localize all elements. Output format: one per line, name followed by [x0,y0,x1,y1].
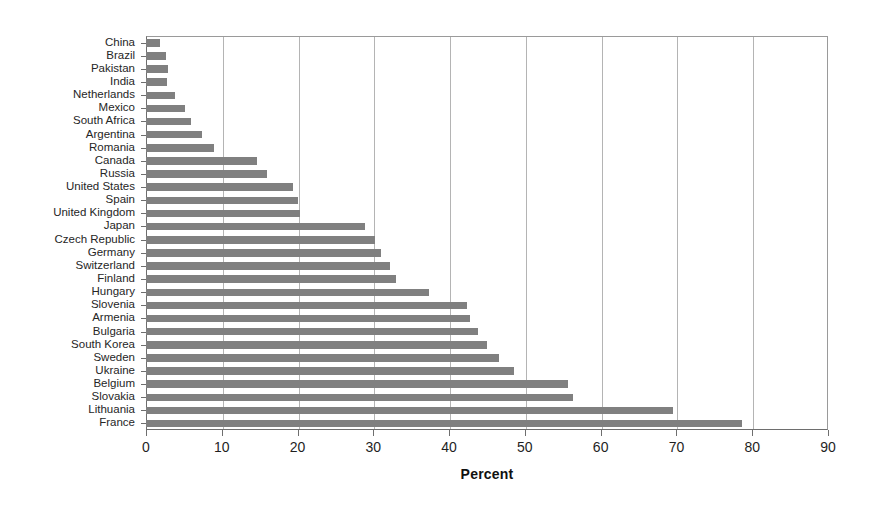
category-label: Germany [88,247,135,259]
x-axis-tick [676,430,677,436]
bar-row [146,207,828,220]
y-axis-tick [141,266,146,267]
y-axis-tick [141,410,146,411]
bar [146,236,375,244]
y-axis-tick [141,148,146,149]
bar [146,131,202,139]
bar [146,65,168,73]
bar-row [146,180,828,193]
x-axis-tick [298,430,299,436]
category-label: Hungary [92,286,135,298]
bar [146,367,514,375]
bar-row [146,36,828,49]
bar-row [146,194,828,207]
y-axis-tick [141,371,146,372]
y-axis-tick [141,240,146,241]
bar-row [146,62,828,75]
bar-row [146,128,828,141]
y-axis-tick [141,332,146,333]
y-axis-tick [141,108,146,109]
value-axis: 0102030405060708090 [146,430,828,470]
bar [146,197,298,205]
bar [146,144,214,152]
bar [146,249,381,257]
bar-row [146,364,828,377]
bar [146,170,267,178]
category-label: Canada [95,155,135,167]
category-label: South Africa [73,115,135,127]
y-axis-tick [141,384,146,385]
y-axis-tick [141,95,146,96]
bar-row [146,49,828,62]
bar-row [146,89,828,102]
category-label: Mexico [99,102,135,114]
x-axis-tick [222,430,223,436]
y-axis-tick [141,43,146,44]
bar-row [146,167,828,180]
bar [146,105,185,113]
bar [146,52,166,60]
bar-row [146,220,828,233]
x-axis-tick-label: 30 [366,439,382,455]
bar [146,262,390,270]
bar-row [146,377,828,390]
y-axis-tick [141,292,146,293]
category-label: France [99,417,135,429]
x-axis-tick-label: 0 [142,439,150,455]
bar [146,289,429,297]
x-axis-tick-label: 70 [669,439,685,455]
bar-row [146,154,828,167]
bar-row [146,141,828,154]
bar-row [146,312,828,325]
category-label: Finland [97,273,135,285]
bar [146,341,487,349]
x-axis-tick [828,430,829,436]
bar [146,394,573,402]
bar-row [146,299,828,312]
bar [146,39,160,47]
bar [146,157,257,165]
bar [146,92,175,100]
x-axis-tick-label: 90 [820,439,836,455]
bar [146,223,365,231]
bar-row [146,233,828,246]
y-axis-tick [141,56,146,57]
bar [146,210,300,218]
category-axis: ChinaBrazilPakistanIndiaNetherlandsMexic… [0,36,146,430]
y-axis-tick [141,135,146,136]
bar [146,407,673,415]
x-axis-tick [373,430,374,436]
bar [146,302,467,310]
y-axis-tick [141,253,146,254]
bar [146,380,568,388]
bar [146,275,396,283]
y-axis-tick [141,213,146,214]
y-axis-tick [141,174,146,175]
category-label: Russia [100,168,135,180]
x-axis-tick [601,430,602,436]
y-axis-tick [141,279,146,280]
category-label: Pakistan [91,63,135,75]
bar [146,78,167,86]
x-axis-tick [752,430,753,436]
y-axis-tick [141,82,146,83]
category-label: Bulgaria [93,326,135,338]
bar-row [146,259,828,272]
bar-row [146,246,828,259]
category-label: Netherlands [73,89,135,101]
y-axis-tick [141,345,146,346]
horizontal-bar-chart: ChinaBrazilPakistanIndiaNetherlandsMexic… [0,0,877,505]
category-label: Slovakia [92,391,135,403]
category-label: Brazil [106,50,135,62]
category-label: United Kingdom [53,207,135,219]
category-label: Czech Republic [54,234,135,246]
x-axis-tick-label: 10 [214,439,230,455]
bar [146,328,478,336]
category-label: United States [66,181,135,193]
y-axis-tick [141,69,146,70]
x-axis-tick [525,430,526,436]
category-label: Ukraine [95,365,135,377]
bar-row [146,338,828,351]
category-label: Spain [106,194,135,206]
y-axis-tick [141,121,146,122]
